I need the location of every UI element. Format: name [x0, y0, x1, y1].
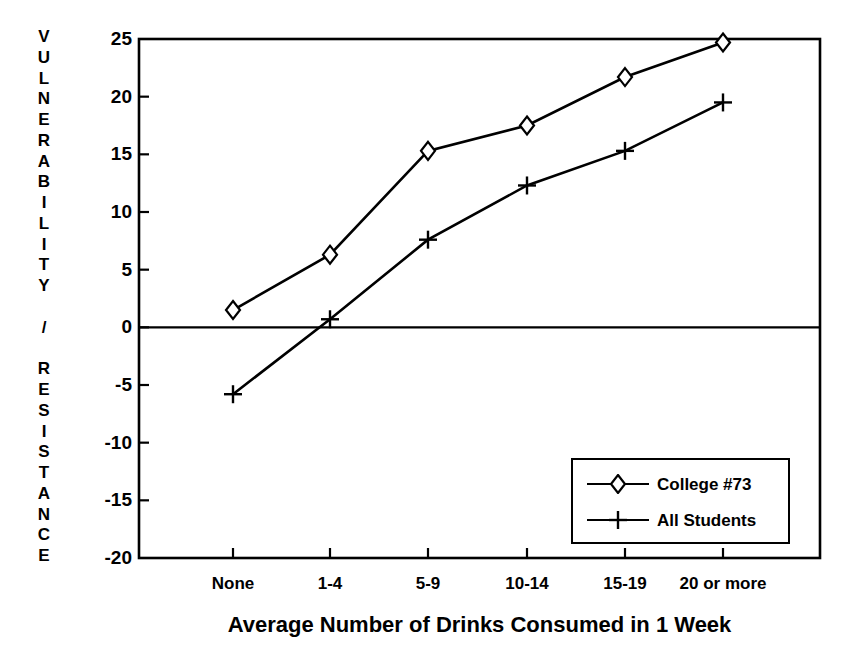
x-axis-tick-label: 1-4	[318, 575, 343, 592]
legend-marker-sample	[587, 474, 649, 494]
chart-figure: VULNERABILITY / RESISTANCE 2520151050-5-…	[0, 0, 847, 663]
legend-label: College #73	[657, 476, 752, 493]
x-axis-tick-label: None	[212, 575, 255, 592]
x-axis-tick-label: 5-9	[416, 575, 441, 592]
x-axis-tick-label: 10-14	[505, 575, 548, 592]
chart-legend: College #73All Students	[571, 458, 790, 544]
diamond-icon	[606, 474, 630, 494]
x-axis-tick-label: 20 or more	[680, 575, 767, 592]
legend-marker-sample	[587, 510, 649, 530]
plus-icon	[606, 510, 630, 530]
diamond-marker	[611, 475, 625, 493]
x-axis-tick-label: 15-19	[603, 575, 646, 592]
legend-label: All Students	[657, 512, 756, 529]
x-axis-label: Average Number of Drinks Consumed in 1 W…	[139, 613, 820, 637]
legend-entry: College #73	[573, 466, 788, 502]
x-axis-tick-labels: None1-45-910-1415-1920 or more	[0, 0, 847, 663]
legend-entry: All Students	[573, 502, 788, 538]
